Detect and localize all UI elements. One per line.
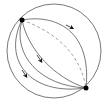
lower-left-arc [20,20,86,88]
sphere-diagram [0,0,107,101]
diagram-canvas [0,0,107,101]
top-left-point [20,18,25,23]
bottom-right-point [84,86,89,91]
arrow-icon [22,70,26,76]
arrow-icon [66,25,72,28]
far-left-arc [16,20,86,89]
arrow-icon [37,55,41,61]
